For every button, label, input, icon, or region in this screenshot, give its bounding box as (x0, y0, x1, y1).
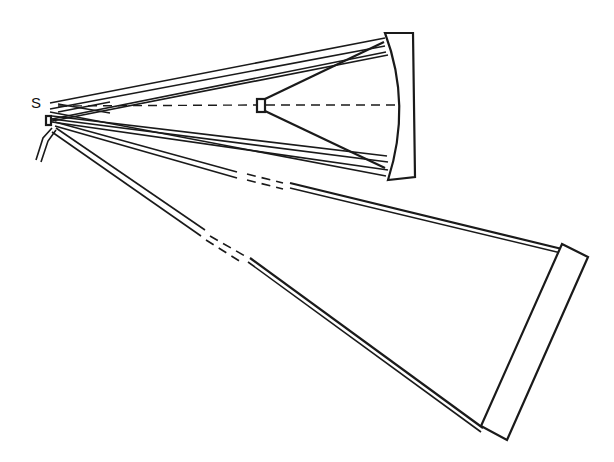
upper-mirror-rays (50, 38, 388, 176)
lower-mirror-rays (52, 122, 562, 432)
upper-mirror (385, 33, 415, 180)
source-aperture (46, 116, 51, 125)
optical-diagram: S (0, 0, 614, 462)
optical-axis (58, 105, 397, 106)
lower-mirror (481, 244, 588, 440)
source-label: S (31, 94, 41, 111)
secondary-element (257, 99, 265, 112)
